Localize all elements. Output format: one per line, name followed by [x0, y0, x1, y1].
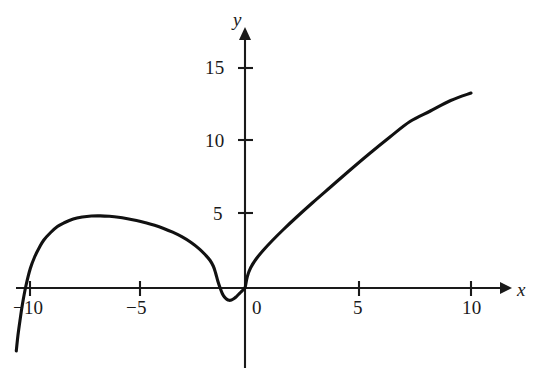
x-tick-label-0: 0: [252, 298, 262, 317]
y-tick-label-15: 15: [205, 58, 224, 77]
x-tick-label-5: 5: [353, 298, 363, 317]
x-tick-label-10: 10: [462, 298, 481, 317]
y-axis-label: y: [233, 10, 241, 29]
graph-figure: −10 −5 0 5 10 5 10 15 x y: [0, 0, 536, 378]
plot-canvas: [0, 0, 536, 378]
y-tick-label-10: 10: [205, 131, 224, 150]
x-axis-label: x: [517, 280, 525, 299]
x-tick-label--10: −10: [13, 298, 43, 317]
y-tick-label-5: 5: [213, 204, 223, 223]
x-tick-label--5: −5: [126, 298, 147, 317]
x-axis-arrow-icon: [500, 282, 512, 294]
curve-path: [16, 93, 471, 351]
